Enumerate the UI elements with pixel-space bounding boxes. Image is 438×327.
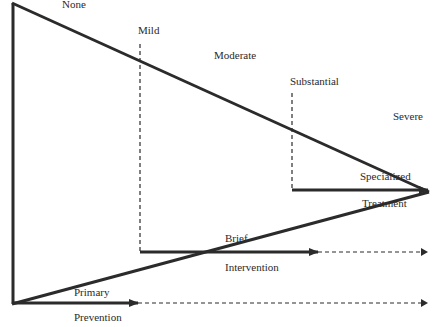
label-intervention: Intervention — [225, 262, 279, 273]
label-substantial: Substantial — [290, 76, 339, 87]
label-specialized: Specialized — [360, 171, 411, 182]
label-brief: Brief — [225, 233, 248, 244]
label-primary: Primary — [74, 287, 109, 298]
label-prevention: Prevention — [74, 312, 122, 323]
label-treatment: Treatment — [362, 198, 407, 209]
primary-prevention-dashed-arrowhead — [421, 299, 428, 307]
top-edge-line — [12, 3, 429, 192]
brief-intervention-dashed-arrowhead — [421, 248, 428, 256]
label-none: None — [62, 0, 86, 10]
label-severe: Severe — [393, 111, 423, 122]
diagram-canvas: None Mild Moderate Substantial Severe Sp… — [0, 0, 438, 327]
label-moderate: Moderate — [214, 50, 256, 61]
label-mild: Mild — [138, 25, 159, 36]
